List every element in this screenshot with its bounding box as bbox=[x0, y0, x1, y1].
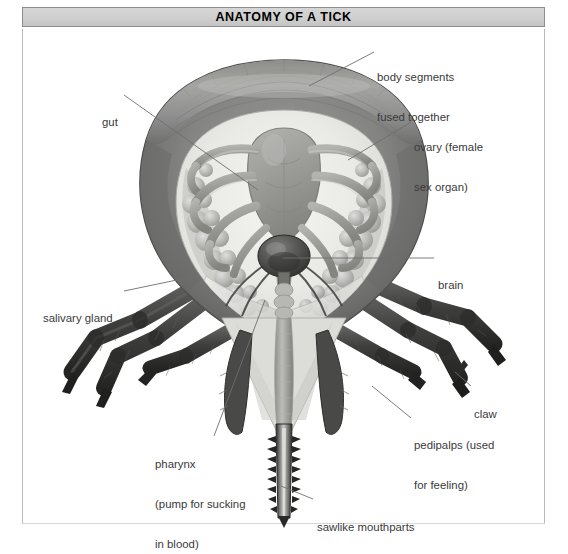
label-gut: gut bbox=[102, 89, 118, 156]
label-salivary-gland-line1: salivary gland bbox=[43, 312, 113, 325]
label-ovary-line2: sex organ) bbox=[414, 181, 483, 194]
label-pharynx-line1: pharynx bbox=[155, 458, 246, 471]
label-body-segments-line1: body segments bbox=[377, 71, 454, 84]
label-pedipalps: pedipalps (used for feeling) bbox=[414, 412, 494, 519]
label-ovary-line1: ovary (female bbox=[414, 141, 483, 154]
page-title: ANATOMY OF A TICK bbox=[215, 10, 351, 24]
label-gut-line1: gut bbox=[102, 116, 118, 129]
figure-title-bar: ANATOMY OF A TICK bbox=[22, 7, 545, 27]
label-brain: brain bbox=[438, 252, 463, 319]
label-pharynx: pharynx (pump for sucking in blood) bbox=[155, 431, 246, 554]
label-sawlike-mouthparts: sawlike mouthparts bbox=[317, 494, 415, 554]
label-pharynx-line3: in blood) bbox=[155, 538, 246, 551]
label-brain-line1: brain bbox=[438, 279, 463, 292]
label-salivary-gland: salivary gland bbox=[43, 285, 113, 352]
label-pedipalps-line1: pedipalps (used bbox=[414, 439, 494, 452]
label-pedipalps-line2: for feeling) bbox=[414, 479, 494, 492]
label-sawlike-mouthparts-line1: sawlike mouthparts bbox=[317, 521, 415, 534]
label-ovary: ovary (female sex organ) bbox=[414, 114, 483, 221]
label-pharynx-line2: (pump for sucking bbox=[155, 498, 246, 511]
